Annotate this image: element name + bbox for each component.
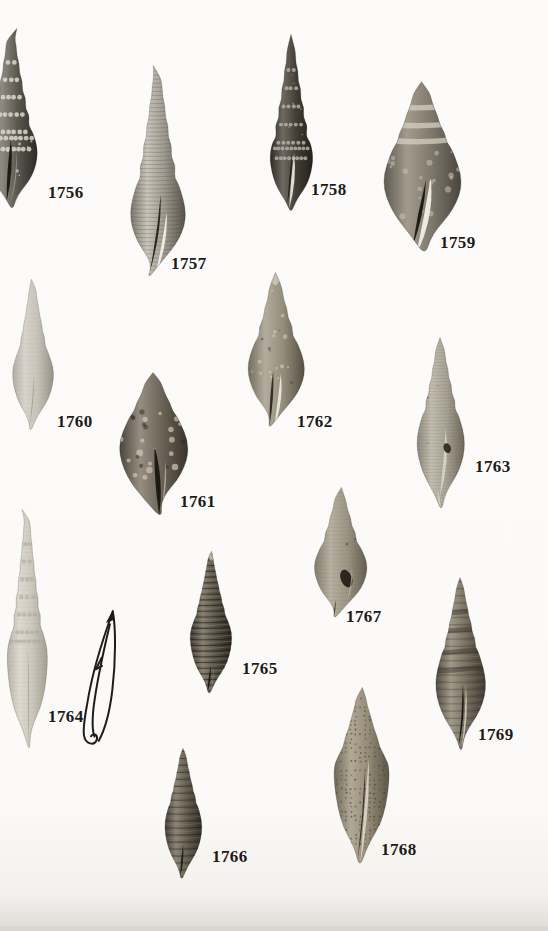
specimen-photo-1759	[376, 80, 467, 258]
figure-label-1756: 1756	[48, 184, 84, 201]
specimen-photo-1766	[154, 747, 212, 883]
specimen-photo-1757	[120, 64, 194, 282]
figure-label-1766: 1766	[212, 848, 248, 865]
plate-page: 1756 1757 1758 1759 1760 1761 1762 1763 …	[0, 0, 548, 931]
page-bottom-edge-shadow	[0, 926, 548, 931]
specimen-photo-1767	[305, 486, 375, 622]
specimen-photo-1760	[2, 278, 63, 435]
figure-label-1764: 1764	[48, 708, 84, 725]
figure-label-1767: 1767	[346, 608, 382, 625]
specimen-photo-1756	[0, 27, 48, 213]
specimen-photo-1763	[404, 336, 476, 514]
figure-label-1762: 1762	[297, 413, 333, 430]
figure-label-1763: 1763	[475, 458, 511, 475]
figure-label-1758: 1758	[311, 181, 347, 198]
figure-label-1759: 1759	[440, 234, 476, 251]
aperture-outline-sketch-drawing	[80, 606, 126, 754]
specimen-photo-1762	[238, 271, 313, 432]
figure-label-1765: 1765	[242, 660, 278, 677]
figure-label-1757: 1757	[171, 255, 207, 272]
figure-label-1761: 1761	[180, 493, 216, 510]
figure-label-1768: 1768	[381, 841, 417, 858]
figure-label-1760: 1760	[57, 413, 93, 430]
specimen-photo-1765	[182, 550, 239, 698]
aperture-outline-sketch	[80, 606, 126, 754]
figure-label-1769: 1769	[478, 726, 514, 743]
